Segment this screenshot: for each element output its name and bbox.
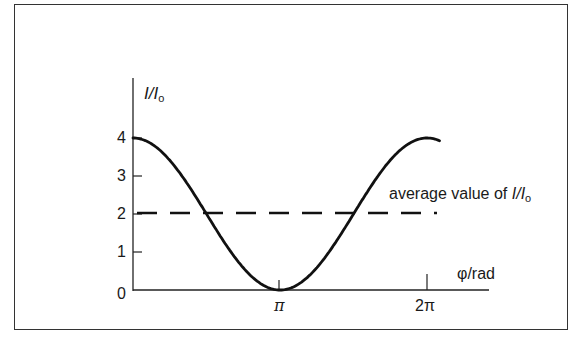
average-annotation: average value of I/Io <box>389 186 531 206</box>
x-tick-label-pi: π <box>274 298 285 314</box>
y-axis-title-main: I/I <box>144 84 158 103</box>
y-ticks <box>133 138 142 252</box>
y-tick-label-3: 3 <box>112 168 126 184</box>
plot-area <box>0 0 580 344</box>
x-tick-label-2pi: 2π <box>415 298 435 314</box>
y-tick-label-1: 1 <box>112 244 126 260</box>
x-axis-title: φ/rad <box>457 266 495 282</box>
y-tick-label-0: 0 <box>112 286 126 302</box>
y-tick-label-4: 4 <box>112 130 126 146</box>
x-tick-label-2pi-text: 2π <box>415 297 435 314</box>
y-axis-title: I/Io <box>144 86 164 106</box>
annotation-sub: o <box>525 192 531 204</box>
y-axis-title-sub: o <box>158 92 164 104</box>
annotation-text: average value of <box>389 185 512 202</box>
y-tick-label-2: 2 <box>112 206 126 222</box>
annotation-var: I/I <box>512 185 525 202</box>
